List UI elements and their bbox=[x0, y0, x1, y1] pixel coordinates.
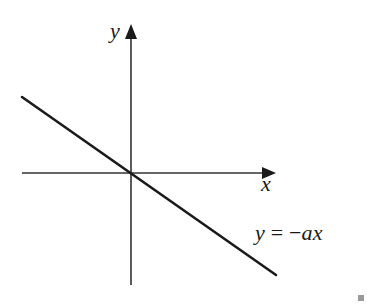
diagram-svg bbox=[0, 0, 367, 305]
equation-lhs: y bbox=[255, 220, 265, 245]
equation-label: y = −ax bbox=[255, 222, 323, 244]
diagram-canvas bbox=[0, 0, 367, 305]
equation-equals: = bbox=[271, 220, 284, 245]
x-axis-label: x bbox=[261, 173, 271, 195]
y-axis-label: y bbox=[110, 20, 120, 42]
graph-line-y-equals-minus-ax bbox=[22, 97, 276, 275]
equation-minus: − bbox=[289, 220, 302, 245]
y-axis-arrowhead-icon bbox=[125, 24, 137, 39]
corner-mark bbox=[358, 295, 364, 301]
equation-rhs: ax bbox=[302, 220, 323, 245]
